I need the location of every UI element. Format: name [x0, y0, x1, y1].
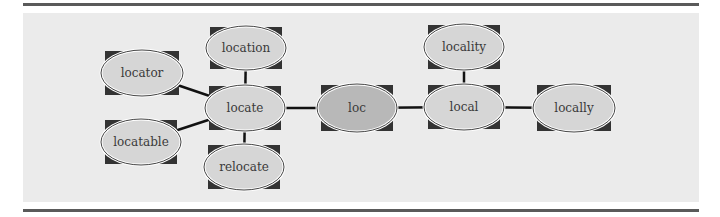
node-location: location — [206, 26, 286, 70]
node-label: locality — [442, 40, 486, 54]
node-label: loc — [348, 101, 366, 115]
node-local: local — [424, 84, 504, 130]
nodes-layer: locatorlocationlocatelocatablerelocatelo… — [101, 24, 615, 190]
node-locally: locally — [533, 84, 615, 132]
node-label: locate — [227, 101, 264, 115]
node-locatable: locatable — [101, 119, 181, 165]
node-label: location — [222, 41, 271, 55]
node-locate: locate — [205, 85, 285, 131]
node-label: local — [450, 100, 479, 114]
node-locator: locator — [101, 50, 183, 96]
node-locality: locality — [424, 24, 504, 70]
word-family-diagram: locatorlocationlocatelocatablerelocatelo… — [0, 0, 720, 217]
node-loc: loc — [317, 84, 397, 132]
node-relocate: relocate — [204, 144, 284, 190]
node-label: relocate — [219, 160, 269, 174]
node-label: locator — [121, 66, 164, 80]
node-label: locatable — [113, 135, 169, 149]
node-label: locally — [554, 101, 594, 115]
